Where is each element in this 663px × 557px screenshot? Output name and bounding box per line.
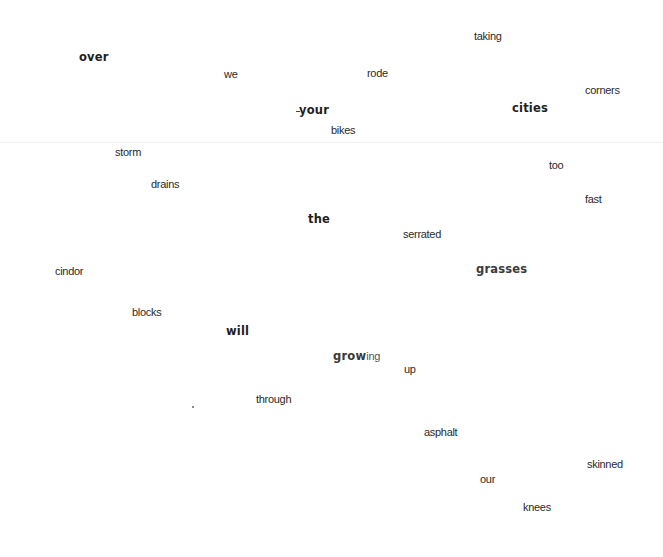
word-the: the — [308, 214, 330, 226]
word-will: will — [226, 326, 249, 338]
word-cindor: cindor — [55, 266, 83, 277]
word-rode: rode — [367, 68, 388, 79]
word-fast: fast — [585, 194, 602, 205]
word-grasses: grasses — [476, 264, 527, 276]
word-cities: cities — [512, 103, 548, 115]
word-bikes: bikes — [331, 125, 355, 136]
word-taking: taking — [474, 31, 502, 42]
word-too: too — [549, 160, 563, 171]
word-your: your — [299, 105, 329, 117]
word-storm: storm — [115, 147, 141, 158]
word-drains: drains — [151, 179, 179, 190]
ink-speck — [192, 406, 194, 408]
word-growing-tail-part: ing — [366, 350, 380, 362]
word-skinned: skinned — [587, 459, 623, 470]
word-up: up — [404, 364, 416, 375]
poem-canvas: taking over we rode corners your cities … — [0, 0, 663, 557]
word-through: through — [256, 394, 291, 405]
word-we: we — [224, 69, 237, 80]
word-our: our — [480, 474, 495, 485]
word-growing-bold-part: grow — [333, 349, 366, 363]
word-corners: corners — [585, 85, 620, 96]
faint-divider-line — [0, 142, 663, 143]
word-blocks: blocks — [132, 307, 161, 318]
word-asphalt: asphalt — [424, 427, 457, 438]
word-serrated: serrated — [403, 229, 441, 240]
word-over: over — [79, 52, 109, 64]
word-knees: knees — [523, 502, 551, 513]
word-growing: growing — [333, 347, 380, 363]
